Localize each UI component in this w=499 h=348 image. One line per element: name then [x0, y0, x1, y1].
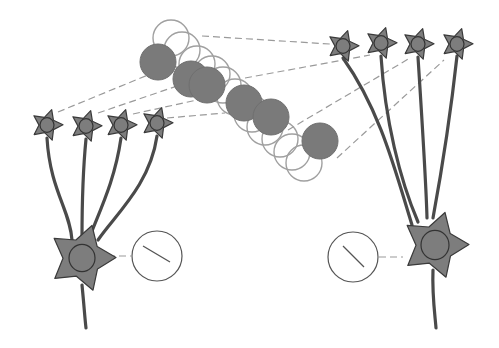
right-input-neuron: [330, 31, 359, 61]
filled-stimulus-circle: [189, 67, 225, 103]
filled-stimulus-circle: [140, 44, 176, 80]
left-input-neuron: [144, 108, 173, 138]
filled-stimulus-circle: [253, 99, 289, 135]
neural-diagram: [0, 0, 499, 348]
left-output-neuron: [54, 226, 116, 291]
left-input-neuron: [108, 110, 137, 140]
left-axons: [47, 136, 157, 328]
neurons: [34, 28, 473, 291]
right-axons: [343, 56, 457, 328]
right-input-neuron: [405, 29, 434, 59]
stimulus-sequence-filled: [140, 44, 338, 159]
right-tuning-dial: [328, 232, 378, 282]
right-input-neuron: [368, 28, 397, 58]
left-tuning-dial: [132, 231, 182, 281]
left-input-neuron: [73, 111, 102, 141]
left-input-neuron: [34, 110, 63, 140]
filled-stimulus-circle: [302, 123, 338, 159]
right-input-neuron: [444, 29, 473, 59]
